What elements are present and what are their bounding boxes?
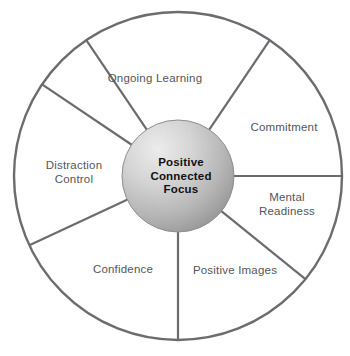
spoke-line bbox=[209, 40, 270, 130]
spoke-line bbox=[86, 40, 147, 130]
spoke-line bbox=[29, 199, 128, 245]
hub-circle bbox=[122, 120, 234, 232]
spoke-line bbox=[42, 84, 132, 145]
wheel-diagram: Positive Connected Focus Ongoing Learnin… bbox=[0, 0, 350, 356]
wheel-graphic bbox=[0, 0, 350, 356]
spoke-line bbox=[221, 211, 306, 280]
